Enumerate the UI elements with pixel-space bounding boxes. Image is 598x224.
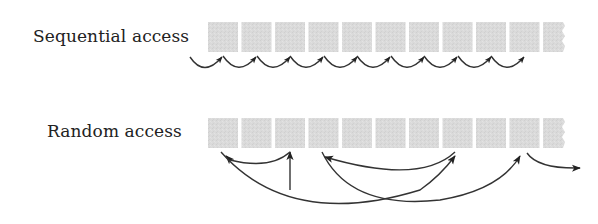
memory-cell (208, 22, 238, 52)
memory-cell (376, 22, 406, 52)
sequential-access-arrows (190, 56, 524, 68)
memory-cell (342, 22, 372, 52)
sequential-arrow-icon (424, 56, 457, 67)
sequential-arrow-icon (324, 56, 357, 67)
sequential-arrow-icon (391, 56, 424, 67)
memory-cell (275, 22, 305, 52)
sequential-memory-cells (208, 22, 565, 52)
memory-cell (309, 22, 339, 52)
memory-cell (208, 118, 238, 148)
sequential-arrow-icon (257, 56, 290, 67)
memory-cell (309, 118, 339, 148)
sequential-arrow-icon (290, 56, 323, 67)
exit-arrow-icon (527, 153, 580, 168)
memory-cell (443, 22, 473, 52)
memory-cell (476, 118, 506, 148)
memory-cell (275, 118, 305, 148)
memory-cell (409, 118, 439, 148)
sequential-arrow-icon (458, 56, 491, 67)
memory-cell (242, 22, 272, 52)
diagram-graphics (0, 0, 598, 224)
memory-cell (443, 118, 473, 148)
memory-cell (476, 22, 506, 52)
memory-cell (242, 118, 272, 148)
jump-arrow-icon (226, 152, 290, 164)
memory-cell (409, 22, 439, 52)
random-access-arrows (221, 152, 580, 204)
memory-cell (342, 118, 372, 148)
sequential-arrow-icon (357, 56, 390, 67)
random-memory-cells (208, 118, 565, 148)
partial-memory-cell (543, 118, 565, 148)
jump-arrow-icon (221, 152, 455, 204)
jump-arrow-icon (322, 152, 520, 201)
memory-cell (376, 118, 406, 148)
memory-access-diagram: Sequential access Random access (0, 0, 598, 224)
sequential-arrow-icon (491, 56, 524, 67)
sequential-arrow-icon (190, 57, 222, 68)
partial-memory-cell (543, 22, 565, 52)
memory-cell (510, 22, 540, 52)
jump-arrow-icon (325, 152, 455, 170)
memory-cell (510, 118, 540, 148)
sequential-arrow-icon (223, 56, 256, 67)
